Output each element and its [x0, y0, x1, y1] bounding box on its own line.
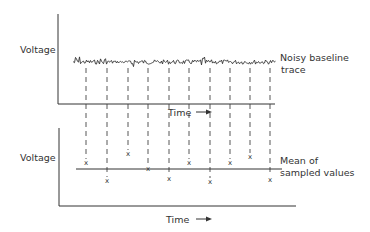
noisy-baseline-trace — [73, 57, 276, 67]
svg-text:x: x — [146, 165, 150, 173]
mean-label-line2: sampled values — [280, 167, 355, 178]
mean-label-line1: Mean of — [280, 155, 318, 166]
bottom-y-axis-label: Voltage — [20, 152, 56, 163]
top-y-axis-label: Voltage — [20, 44, 56, 55]
svg-text:x: x — [208, 178, 212, 186]
svg-text:x: x — [248, 153, 252, 161]
svg-text:x: x — [228, 159, 232, 167]
bottom-axes — [59, 128, 296, 206]
sample-markers: xxxxxxxxxx — [84, 150, 272, 186]
top-x-axis-label: Time — [168, 107, 191, 118]
svg-text:x: x — [187, 159, 191, 167]
svg-text:x: x — [167, 175, 171, 183]
svg-text:x: x — [84, 159, 88, 167]
trace-label-line2: trace — [281, 64, 306, 75]
sampling-lines — [86, 68, 270, 178]
svg-text:x: x — [126, 150, 130, 158]
trace-label-line1: Noisy baseline — [280, 52, 349, 63]
svg-text:x: x — [105, 177, 109, 185]
bottom-x-axis-label: Time — [166, 214, 189, 225]
time-arrow-bottom — [196, 217, 212, 222]
svg-text:x: x — [268, 176, 272, 184]
top-axes — [58, 14, 275, 104]
